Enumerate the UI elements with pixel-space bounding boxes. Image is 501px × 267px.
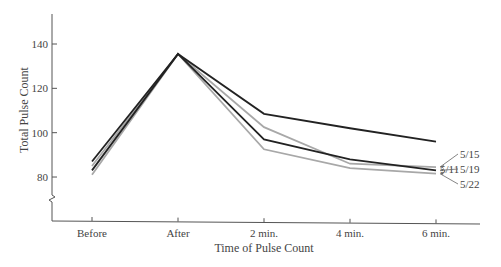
- y-axis-title: Total Pulse Count: [17, 66, 31, 152]
- series-line-5-19: [92, 54, 436, 170]
- x-axis-title: Time of Pulse Count: [214, 241, 314, 255]
- y-tick-label: 120: [32, 82, 49, 94]
- y-tick-label: 80: [37, 171, 49, 183]
- label-arrow: [440, 174, 458, 184]
- axis-break-mark: [49, 195, 55, 202]
- series-lines: [92, 54, 436, 175]
- x-tick-label: Before: [77, 227, 107, 239]
- x-tick-label: After: [166, 227, 190, 239]
- y-tick-label: 140: [32, 38, 49, 50]
- series-label-5-15: 5/15: [460, 148, 480, 160]
- series-label-5-22: 5/22: [460, 178, 480, 190]
- x-tick-label: 4 min.: [336, 227, 364, 239]
- series-labels: 5/115/155/195/22: [440, 148, 480, 190]
- line-chart: 80100120140BeforeAfter2 min.4 min.6 min.…: [0, 0, 501, 267]
- series-label-5-19: 5/19: [460, 163, 480, 175]
- series-line-5-11: [92, 54, 436, 162]
- x-tick-label: 2 min.: [250, 227, 278, 239]
- x-tick-label: 6 min.: [422, 227, 450, 239]
- axes: 80100120140BeforeAfter2 min.4 min.6 min.: [32, 14, 481, 239]
- x-axis-line: [52, 221, 480, 224]
- y-tick-label: 100: [32, 127, 49, 139]
